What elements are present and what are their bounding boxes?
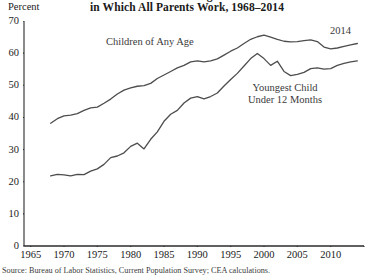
series-label-under-12-months: Youngest Child Under 12 Months (248, 82, 322, 105)
y-axis-tick-label: 70 (1, 16, 19, 26)
x-axis-tick-label: 1965 (20, 249, 41, 261)
x-axis-tick-label: 2010 (320, 249, 341, 261)
source-note: Source: Bureau of Labor Statistics, Curr… (2, 266, 270, 275)
x-axis-tick-labels: 1965197019751980198519901995200020052010 (23, 249, 365, 263)
y-axis-tick-label: 40 (1, 112, 19, 122)
x-axis-tick-label: 1985 (154, 249, 175, 261)
x-axis-tick-label: 1970 (54, 249, 75, 261)
x-axis-tick-label: 1990 (187, 249, 208, 261)
x-axis-tick-label: 1980 (120, 249, 141, 261)
x-axis-tick-label: 1975 (87, 249, 108, 261)
y-axis-tick-labels: 010203040506070 (0, 21, 19, 247)
y-axis-tick-label: 60 (1, 48, 19, 58)
y-axis-tick-label: 30 (1, 145, 19, 155)
end-year-annotation: 2014 (330, 25, 351, 37)
y-axis-tick-label: 0 (1, 241, 19, 251)
y-axis-unit-label: Percent (8, 1, 40, 12)
chart-title: Share of Children Living in Households i… (0, 0, 374, 13)
chart-title-line2: in Which All Parents Work, 1968–2014 (0, 1, 374, 13)
y-axis-tick-label: 50 (1, 80, 19, 90)
y-axis-tick-label: 20 (1, 177, 19, 187)
series-label-any-age: Children of Any Age (106, 36, 194, 48)
x-axis-tick-label: 1995 (220, 249, 241, 261)
y-axis-tick-label: 10 (1, 209, 19, 219)
series-line-any-age (51, 35, 358, 123)
axes (23, 21, 364, 247)
x-axis-tick-label: 2000 (254, 249, 275, 261)
series-line-under-12-months (51, 53, 358, 175)
series-label-under-12-months-line1: Youngest Child (252, 82, 317, 93)
plot-area (23, 21, 365, 246)
x-axis-tick-label: 2005 (287, 249, 308, 261)
series-label-under-12-months-line2: Under 12 Months (248, 94, 322, 105)
data-series (51, 35, 358, 176)
plot-svg (23, 21, 365, 247)
chart-figure: Share of Children Living in Households i… (0, 0, 374, 277)
